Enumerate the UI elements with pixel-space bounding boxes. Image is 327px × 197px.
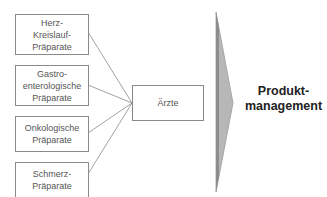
result-label-produktmanagement: Produkt- management [240,84,327,114]
source-box-herz: Herz- Kreislauf- Präparate [15,14,89,55]
source-box-gastro: Gastro- enterologische Präparate [15,65,89,106]
source-box-schmerz: Schmerz- Präparate [15,162,89,197]
target-box-aerzte: Ärzte [132,85,204,121]
source-box-onko: Onkologische Präparate [15,116,89,152]
